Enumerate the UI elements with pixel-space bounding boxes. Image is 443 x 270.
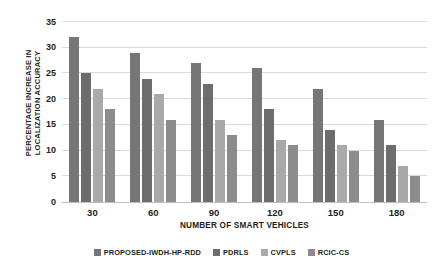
x-axis-title: NUMBER OF SMART VEHICLES — [62, 221, 427, 230]
bar[interactable] — [142, 79, 152, 202]
legend-label: CVPLS — [271, 248, 296, 257]
bar[interactable] — [386, 145, 396, 202]
legend-item[interactable]: PROPOSED-IWDH-HP-RDD — [94, 248, 201, 257]
chart-legend: PROPOSED-IWDH-HP-RDDPDRLSCVPLSRCIC-CS — [0, 248, 443, 257]
bar-group — [374, 22, 420, 202]
bar-group — [313, 22, 359, 202]
x-axis-tick-label: 120 — [245, 207, 305, 218]
bar[interactable] — [410, 176, 420, 202]
bar[interactable] — [313, 89, 323, 202]
bar[interactable] — [81, 73, 91, 202]
bar[interactable] — [374, 120, 384, 202]
legend-item[interactable]: CVPLS — [261, 248, 296, 257]
x-axis-tick-label: 150 — [306, 207, 366, 218]
x-axis-tick-label: 180 — [367, 207, 427, 218]
bar-group — [191, 22, 237, 202]
bar[interactable] — [227, 135, 237, 202]
bar[interactable] — [105, 109, 115, 202]
legend-item[interactable]: RCIC-CS — [308, 248, 350, 257]
legend-label: RCIC-CS — [318, 248, 350, 257]
bar-group — [130, 22, 176, 202]
x-axis-tick-label: 30 — [62, 207, 122, 218]
bar[interactable] — [191, 63, 201, 202]
legend-label: PROPOSED-IWDH-HP-RDD — [104, 248, 201, 257]
bar[interactable] — [130, 53, 140, 202]
bar[interactable] — [252, 68, 262, 202]
bar[interactable] — [325, 130, 335, 202]
bar[interactable] — [398, 166, 408, 202]
legend-swatch-icon — [213, 249, 220, 256]
bar[interactable] — [203, 84, 213, 202]
bar[interactable] — [288, 145, 298, 202]
legend-item[interactable]: PDRLS — [213, 248, 249, 257]
bar-group — [252, 22, 298, 202]
bars-layer — [62, 22, 427, 203]
bar[interactable] — [69, 37, 79, 202]
bar-group — [69, 22, 115, 202]
bar[interactable] — [337, 145, 347, 202]
bar[interactable] — [215, 120, 225, 202]
bar[interactable] — [154, 94, 164, 202]
legend-swatch-icon — [261, 249, 268, 256]
x-axis-tick-label: 60 — [123, 207, 183, 218]
legend-swatch-icon — [308, 249, 315, 256]
bar-chart-figure: PERCENTAGE INCREASE IN LOCALIZATION ACCU… — [0, 0, 443, 270]
legend-swatch-icon — [94, 249, 101, 256]
legend-label: PDRLS — [223, 248, 249, 257]
bar[interactable] — [93, 89, 103, 202]
x-axis-tick-label: 90 — [184, 207, 244, 218]
plot-area — [62, 22, 427, 203]
bar[interactable] — [349, 151, 359, 202]
bar[interactable] — [166, 120, 176, 202]
y-axis-title: PERCENTAGE INCREASE IN LOCALIZATION ACCU… — [22, 3, 44, 203]
bar[interactable] — [264, 109, 274, 202]
bar[interactable] — [276, 140, 286, 202]
